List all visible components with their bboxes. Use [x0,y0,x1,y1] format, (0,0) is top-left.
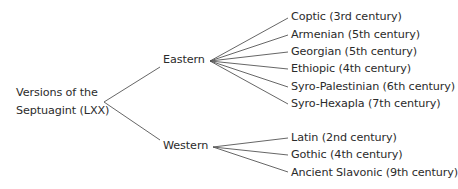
leaf-georgian: Georgian (5th century) [291,45,417,59]
connector-western-latin [213,138,288,147]
leaf-latin: Latin (2nd century) [291,131,397,145]
leaf-ethiopic: Ethiopic (4th century) [291,62,411,76]
root-label-line1: Versions of the [16,84,109,102]
root-node: Versions of the Septuagint (LXX) [16,84,109,120]
connector-eastern-georgian [210,52,288,61]
leaf-gothic: Gothic (4th century) [291,148,403,162]
leaf-armenian: Armenian (5th century) [291,28,420,42]
leaf-ancient-slavonic: Ancient Slavonic (9th century) [291,166,458,180]
leaf-syro-hexapla: Syro-Hexapla (7th century) [291,97,440,111]
connector-eastern-armenian [210,35,288,61]
leaf-coptic: Coptic (3rd century) [291,10,402,24]
leaf-syro-palestinian: Syro-Palestinian (6th century) [291,80,455,94]
branch-western: Western [163,139,208,153]
root-label-line2: Septuagint (LXX) [16,102,109,120]
connector-root-eastern [104,67,160,102]
connector-eastern-coptic [210,18,288,61]
connector-root-western [104,102,160,140]
branch-eastern: Eastern [163,53,205,67]
